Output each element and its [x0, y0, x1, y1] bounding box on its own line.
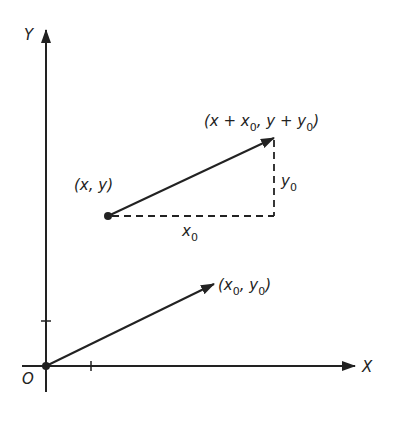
translated-vector	[108, 138, 274, 216]
x0-label: x0	[181, 222, 198, 244]
y-axis-label: Y	[24, 26, 35, 44]
position-vector	[46, 284, 214, 366]
y0-label: y0	[280, 172, 297, 194]
start-point-label: (x, y)	[74, 176, 113, 194]
x-axis-label: X	[361, 358, 373, 376]
diagram-canvas: Y X O (x, y) (x + x0, y + y0) y0 x0 (x0,…	[0, 0, 394, 422]
end-point-label: (x + x0, y + y0)	[204, 112, 319, 134]
origin-label: O	[22, 370, 34, 388]
vector-tip-label: (x0, y0)	[218, 276, 271, 298]
